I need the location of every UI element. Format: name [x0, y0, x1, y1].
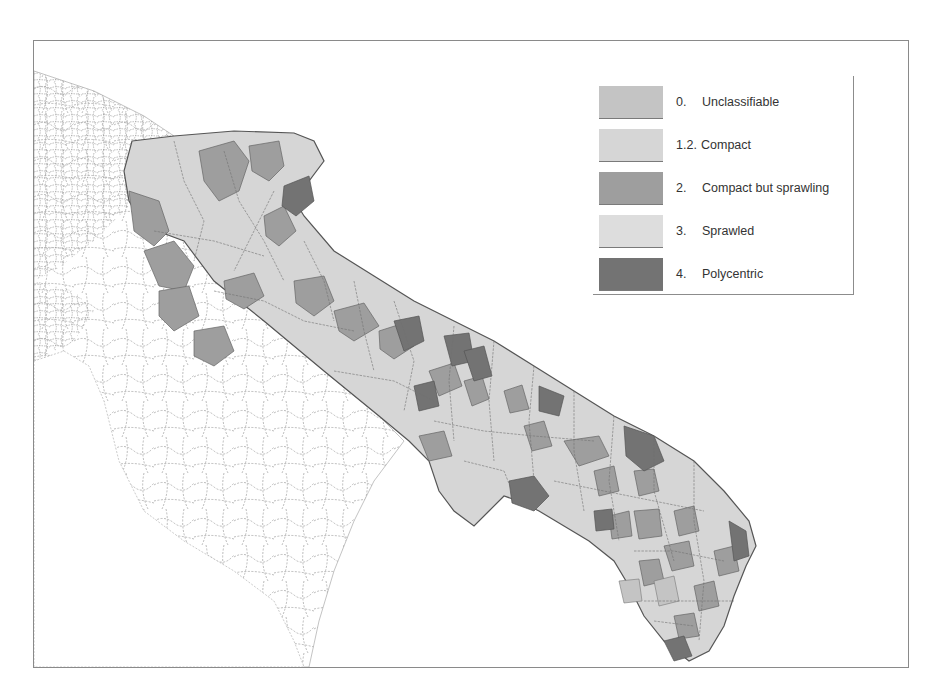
legend-swatch — [599, 215, 663, 248]
legend-swatch — [599, 86, 663, 119]
legend-label: Compact but sprawling — [702, 181, 829, 195]
legend-label: Unclassifiable — [702, 95, 779, 109]
legend-swatch — [599, 129, 663, 162]
legend-number: 1.2. — [676, 138, 697, 152]
legend-item-compact-but-sprawling: 2. Compact but sprawling — [593, 172, 853, 206]
legend-item-polycentric: 4. Polycentric — [593, 258, 853, 292]
legend-item-sprawled: 3. Sprawled — [593, 215, 853, 249]
legend-item-compact: 1.2. Compact — [593, 129, 853, 163]
legend-item-unclassifiable: 0. Unclassifiable — [593, 86, 853, 120]
legend-label: Polycentric — [702, 267, 763, 281]
legend-number: 0. — [676, 95, 686, 109]
legend-number: 4. — [676, 267, 686, 281]
legend-swatch — [599, 172, 663, 205]
legend-label: Compact — [701, 138, 751, 152]
legend-number: 3. — [676, 224, 686, 238]
legend-number: 2. — [676, 181, 686, 195]
map-frame: 0. Unclassifiable 1.2. Compact 2. Compac… — [33, 40, 909, 668]
legend-label: Sprawled — [702, 224, 754, 238]
map-legend: 0. Unclassifiable 1.2. Compact 2. Compac… — [593, 76, 854, 295]
legend-swatch — [599, 258, 663, 291]
